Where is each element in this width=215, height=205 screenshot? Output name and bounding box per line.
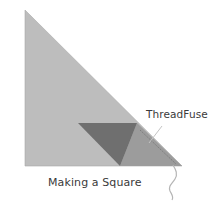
thread-squiggle-icon xyxy=(169,165,176,200)
threadfuse-label: ThreadFuse xyxy=(146,108,208,120)
diagram-caption: Making a Square xyxy=(48,176,142,189)
square-diagram xyxy=(0,0,215,205)
